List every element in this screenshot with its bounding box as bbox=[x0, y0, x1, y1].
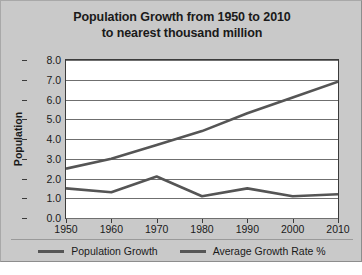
series-line bbox=[66, 177, 338, 197]
legend-swatch-icon bbox=[38, 250, 64, 253]
x-axis-tick-label: 2000 bbox=[271, 223, 315, 235]
y-axis-tick-mark bbox=[22, 80, 27, 81]
y-axis-tick-label: 7.0 bbox=[31, 75, 61, 85]
legend-swatch-icon bbox=[180, 250, 206, 253]
chart-title-line-2: to nearest thousand million bbox=[1, 25, 362, 41]
series-line bbox=[66, 82, 338, 169]
legend-item-average-growth-rate: Average Growth Rate % bbox=[180, 245, 326, 257]
y-axis-tick-mark bbox=[22, 198, 27, 199]
x-axis-tick-label: 1960 bbox=[89, 223, 133, 235]
plot-area bbox=[65, 59, 339, 219]
chart-legend: Population Growth Average Growth Rate % bbox=[1, 243, 362, 259]
y-axis-tick-mark bbox=[22, 119, 27, 120]
y-axis-tick-label: 1.0 bbox=[31, 193, 61, 203]
legend-label: Average Growth Rate % bbox=[213, 245, 326, 257]
x-axis-tick-label: 1990 bbox=[225, 223, 269, 235]
chart-title: Population Growth from 1950 to 2010 to n… bbox=[1, 9, 362, 41]
y-axis-tick-mark bbox=[22, 139, 27, 140]
x-axis-tick-labels: 1950196019701980199020002010 bbox=[65, 223, 339, 237]
series-lines bbox=[66, 60, 338, 218]
chart-title-line-1: Population Growth from 1950 to 2010 bbox=[73, 10, 290, 24]
y-axis-tick-label: 4.0 bbox=[31, 134, 61, 144]
y-axis-tick-label: 2.0 bbox=[31, 174, 61, 184]
x-axis-tick-label: 2010 bbox=[316, 223, 360, 235]
y-axis-tick-mark bbox=[22, 100, 27, 101]
bottom-strip bbox=[0, 262, 362, 275]
y-axis-tick-mark bbox=[22, 60, 27, 61]
chart-card: Population Growth from 1950 to 2010 to n… bbox=[0, 0, 362, 262]
y-axis-tick-label: 6.0 bbox=[31, 95, 61, 105]
y-axis-tick-label: 8.0 bbox=[31, 55, 61, 65]
legend-item-population-growth: Population Growth bbox=[38, 245, 157, 257]
x-axis-tick-label: 1950 bbox=[44, 223, 88, 235]
legend-separator bbox=[11, 239, 353, 240]
x-axis-tick-label: 1980 bbox=[180, 223, 224, 235]
y-axis-tick-mark bbox=[22, 159, 27, 160]
y-axis-tick-label: 3.0 bbox=[31, 154, 61, 164]
y-axis-tick-label: 5.0 bbox=[31, 114, 61, 124]
x-axis-tick-label: 1970 bbox=[135, 223, 179, 235]
legend-label: Population Growth bbox=[71, 245, 157, 257]
y-axis-tick-labels: 0.01.02.03.04.05.06.07.08.0 bbox=[27, 59, 61, 219]
y-axis-tick-label: 0.0 bbox=[31, 213, 61, 223]
y-axis-tick-mark bbox=[22, 179, 27, 180]
y-axis-tick-mark bbox=[22, 218, 27, 219]
